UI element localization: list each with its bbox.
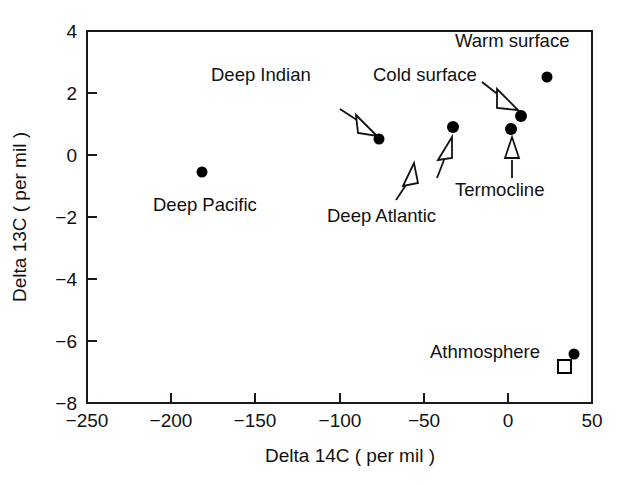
annotation-athmosphere: Athmosphere — [430, 341, 540, 362]
x-tick-label-6: 50 — [581, 410, 602, 431]
annotation-warm-surface: Warm surface — [455, 30, 569, 51]
data-point-cold-surface — [515, 110, 527, 122]
data-point-warm-surface — [542, 72, 553, 83]
y-tick-label-2: 0 — [66, 145, 77, 166]
x-tick-label-3: −100 — [319, 410, 362, 431]
data-point-deep-atlantic — [447, 121, 459, 133]
annotation-deep-pacific: Deep Pacific — [153, 194, 257, 215]
data-point-deep-pacific — [197, 167, 208, 178]
x-tick-label-5: 0 — [503, 410, 514, 431]
annotation-cold-surface: Cold surface — [373, 64, 477, 85]
annotation-deep-atlantic: Deep Atlantic — [327, 205, 436, 226]
x-axis-title: Delta 14C ( per mil ) — [265, 445, 435, 466]
y-tick-label-5: −6 — [55, 331, 77, 352]
y-tick-label-0: 4 — [66, 21, 77, 42]
annotation-deep-indian: Deep Indian — [211, 64, 311, 85]
data-point-termocline — [505, 123, 517, 135]
data-point-athmosphere-circle — [569, 349, 580, 360]
y-axis-title: Delta 13C ( per mil ) — [9, 132, 30, 302]
plot-svg: −250 −200 −150 −100 −50 0 50 4 2 0 −2 −4… — [0, 0, 625, 485]
scatter-plot-figure: −250 −200 −150 −100 −50 0 50 4 2 0 −2 −4… — [0, 0, 625, 485]
data-point-athmosphere-square — [558, 360, 571, 373]
y-tick-label-4: −4 — [55, 269, 77, 290]
x-tick-label-2: −150 — [234, 410, 277, 431]
annotation-termocline: Termocline — [455, 179, 544, 200]
x-tick-label-1: −200 — [150, 410, 193, 431]
y-tick-label-6: −8 — [55, 393, 77, 414]
y-tick-label-3: −2 — [55, 207, 77, 228]
y-tick-label-1: 2 — [66, 83, 77, 104]
x-tick-label-4: −50 — [408, 410, 440, 431]
